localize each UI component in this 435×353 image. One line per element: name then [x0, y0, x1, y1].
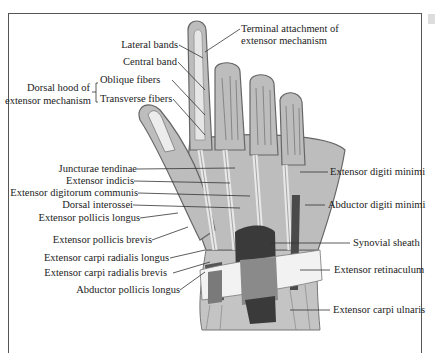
label-extensor-retinaculum: Extensor retinaculum: [334, 264, 424, 276]
label-terminal-attachment-line2: extensor mechanism: [241, 35, 327, 47]
label-transverse-fibers: Transverse fibers: [100, 93, 172, 105]
label-abductor-pollicis-longus: Abductor pollicis longus: [76, 284, 180, 296]
label-extensor-digiti-minimi: Extensor digiti minimi: [330, 166, 425, 178]
label-extensor-pollicis-brevis: Extensor pollicis brevis: [53, 234, 152, 246]
label-extensor-carpi-ulnaris: Extensor carpi ulnaris: [333, 304, 425, 316]
label-extensor-carpi-radialis-brevis: Extensor carpi radialis brevis: [44, 267, 167, 279]
label-dorsal-hood-line2: extensor mechanism: [5, 95, 91, 107]
label-extensor-carpi-radialis-longus: Extensor carpi radialis longus: [44, 252, 169, 264]
label-terminal-attachment-line1: Terminal attachment of: [241, 23, 339, 35]
label-juncturae-tendinae: Juncturae tendinae: [59, 163, 137, 175]
label-oblique-fibers: Oblique fibers: [100, 74, 160, 86]
label-extensor-pollicis-longus: Extensor pollicis longus: [39, 212, 141, 224]
label-central-band: Central band: [123, 56, 177, 68]
label-extensor-digitorum-communis: Extensor digitorum communis: [10, 187, 138, 199]
label-lateral-bands: Lateral bands: [121, 39, 178, 51]
label-synovial-sheath: Synovial sheath: [353, 237, 420, 249]
label-abductor-digiti-minimi: Abductor digiti minimi: [328, 199, 425, 211]
label-dorsal-interossei: Dorsal interossei: [62, 199, 133, 211]
label-dorsal-hood-line1: Dorsal hood of: [27, 82, 90, 94]
label-extensor-indicis: Extensor indicis: [66, 175, 134, 187]
